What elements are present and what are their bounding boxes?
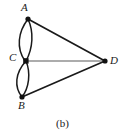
- node-c: [23, 58, 28, 63]
- node-d: [102, 58, 107, 63]
- edge-b-d: [22, 61, 105, 97]
- edge-c-b-right: [22, 61, 29, 97]
- node-label-d: D: [110, 55, 118, 66]
- node-a: [25, 16, 30, 21]
- edge-a-c-left: [19, 19, 28, 61]
- node-label-b: B: [18, 100, 25, 111]
- node-label-a: A: [21, 2, 28, 13]
- figure-container: A B C D (b): [0, 0, 125, 137]
- edge-a-d: [28, 19, 105, 61]
- edge-a-c-right: [26, 19, 32, 61]
- figure-caption: (b): [0, 116, 125, 130]
- node-label-c: C: [9, 52, 16, 63]
